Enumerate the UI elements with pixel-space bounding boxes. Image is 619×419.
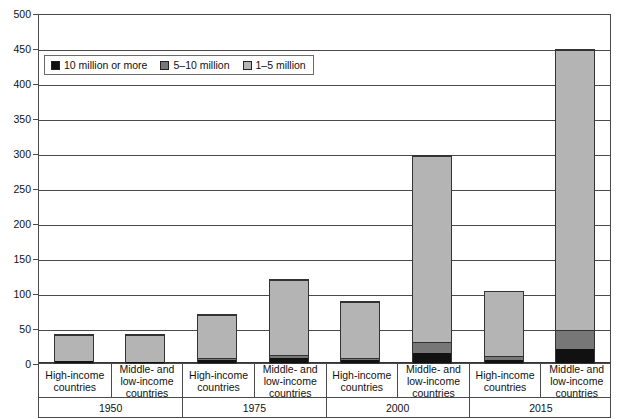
y-axis-tick-label: 200 [13,219,31,230]
y-axis-tick-label: 350 [13,114,31,125]
y-axis-tick-label: 400 [13,79,31,90]
bar-segment [198,315,236,359]
category-axis-label: Middle- and low-income countries [254,364,326,397]
bar-segment [126,335,164,362]
y-axis-tick-label: 300 [13,149,31,160]
bar-segment [413,353,451,363]
category-axis-label: High-income countries [182,364,254,397]
y-axis-tick-label: 450 [13,44,31,55]
y-axis-tick-label: 0 [25,359,31,370]
legend-swatch-icon [243,61,252,70]
bar-stack[interactable] [484,291,524,365]
bar-segment [556,330,594,349]
year-axis-label: 1975 [182,398,325,417]
category-axis-label: Middle- and low-income countries [540,364,612,397]
bar-segment [198,360,236,363]
bar-stack[interactable] [125,334,165,364]
bar-segment [413,342,451,352]
legend-label: 10 million or more [64,59,147,71]
category-axis: High-income countriesMiddle- and low-inc… [38,364,611,398]
y-axis-tick-label: 100 [13,289,31,300]
year-axis-label: 1950 [39,398,182,417]
legend-item-1-5-million[interactable]: 1–5 million [243,59,306,71]
legend-swatch-icon [160,61,169,70]
category-axis-label: Middle- and low-income countries [397,364,469,397]
bar-stack[interactable] [269,279,309,364]
bar-segment [556,349,594,363]
legend-item-5-10-million[interactable]: 5–10 million [160,59,229,71]
chart-legend: 10 million or more 5–10 million 1–5 mill… [44,55,314,75]
bar-stack[interactable] [555,49,595,364]
bar-stack[interactable] [340,301,380,364]
y-axis-tick-label: 50 [19,324,31,335]
bar-segment [413,156,451,342]
bar-stack[interactable] [412,155,452,364]
y-axis-tick-label: 500 [13,9,31,20]
category-axis-label: Middle- and low-income countries [111,364,183,397]
legend-swatch-icon [51,61,60,70]
category-axis-label: High-income countries [39,364,111,397]
year-axis-label: 2015 [469,398,612,417]
bar-stack[interactable] [197,314,237,364]
legend-label: 1–5 million [256,59,306,71]
bar-segment [485,360,523,363]
y-axis: 500450400350300250200150100500 [0,0,38,419]
bar-segment [485,291,523,356]
bar-segment [55,335,93,361]
year-axis-label: 2000 [326,398,469,417]
bar-segment [341,302,379,358]
y-axis-tick-label: 250 [13,184,31,195]
year-axis: 1950197520002015 [38,398,611,418]
bar-segment [341,360,379,363]
bar-chart: 500450400350300250200150100500 10 millio… [0,0,619,419]
legend-label: 5–10 million [173,59,229,71]
category-axis-label: High-income countries [326,364,398,397]
bar-segment [55,361,93,363]
legend-item-10-million-or-more[interactable]: 10 million or more [51,59,147,71]
bar-segment [556,50,594,330]
bar-segment [270,280,308,356]
y-axis-tick-label: 150 [13,254,31,265]
bar-stack[interactable] [54,334,94,364]
category-axis-label: High-income countries [469,364,541,397]
